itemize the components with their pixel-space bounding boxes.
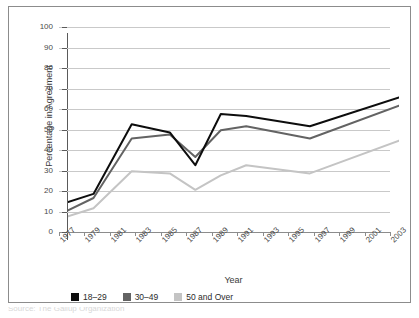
y-tick-label: 60: [23, 105, 53, 113]
y-tick-mark: [62, 171, 67, 172]
legend-label: 18–29: [83, 293, 107, 302]
legend-swatch-icon: [123, 293, 131, 301]
y-tick-mark: [62, 109, 67, 110]
y-tick-label: 90: [23, 44, 53, 52]
y-tick-label: 40: [23, 146, 53, 154]
y-tick-label: 0: [23, 228, 53, 236]
x-axis-title: Year: [68, 275, 399, 285]
legend-label: 30–49: [135, 293, 159, 302]
y-tick-label: 10: [23, 208, 53, 216]
series-line: [68, 98, 399, 203]
y-tick-mark: [62, 212, 67, 213]
y-tick-mark: [62, 48, 67, 49]
y-tick-mark: [62, 191, 67, 192]
y-tick-mark: [62, 150, 67, 151]
legend-label: 50 and Over: [186, 293, 233, 302]
y-tick-mark: [62, 130, 67, 131]
legend-swatch-icon: [174, 293, 182, 301]
legend-swatch-icon: [71, 293, 79, 301]
series-line: [68, 141, 399, 217]
y-tick-mark: [62, 89, 67, 90]
plot-lines: [68, 34, 399, 239]
figure-container: Percentage in Agreement 1009080706050403…: [0, 0, 419, 318]
legend-entry: 50 and Over: [174, 293, 233, 302]
chart-legend: 18–2930–4950 and Over: [68, 290, 399, 304]
y-tick-label: 70: [23, 85, 53, 93]
y-tick-label: 100: [23, 23, 53, 31]
gridline: [59, 27, 390, 28]
legend-entry: 18–29: [71, 293, 107, 302]
chart-panel: Percentage in Agreement 1009080706050403…: [8, 6, 411, 303]
y-tick-label: 80: [23, 64, 53, 72]
y-tick-label: 20: [23, 187, 53, 195]
source-caption-text: Source: The Gallup Organization: [8, 307, 124, 313]
y-tick-mark: [62, 27, 67, 28]
legend-entry: 30–49: [123, 293, 159, 302]
y-tick-label: 30: [23, 167, 53, 175]
source-caption: Source: The Gallup Organization: [8, 307, 208, 318]
y-tick-label: 50: [23, 126, 53, 134]
y-tick-mark: [62, 68, 67, 69]
